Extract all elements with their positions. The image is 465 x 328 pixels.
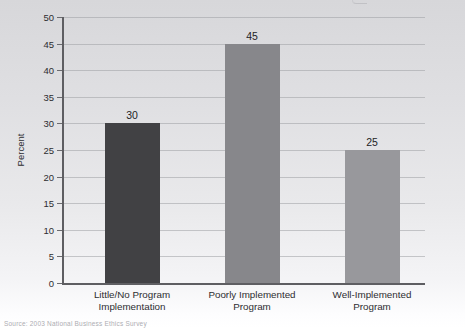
y-axis-tick [57,177,62,178]
y-axis-tick-label: 10 [22,224,54,235]
y-axis-tick [57,123,62,124]
y-axis-tick [57,283,62,284]
y-axis-tick [57,44,62,45]
y-axis-tick-label: 35 [22,91,54,102]
y-axis-tick [57,70,62,71]
y-axis-tick [57,256,62,257]
gridline [64,17,425,18]
y-axis-tick [57,17,62,18]
bar [345,150,400,283]
y-axis-tick-label: 25 [22,145,54,156]
y-axis-tick [57,203,62,204]
bar-value-label: 30 [102,109,162,123]
x-axis-category-label: Well-ImplementedProgram [297,289,447,313]
y-axis-tick-label: 30 [22,118,54,129]
cropped-text-artifact [352,0,367,4]
y-axis-tick-label: 20 [22,171,54,182]
source-note: Source: 2003 National Business Ethics Su… [4,320,147,327]
y-axis-tick-label: 50 [22,12,54,23]
y-axis-tick [57,97,62,98]
bar-value-label: 25 [342,136,402,150]
y-axis-tick-label: 15 [22,198,54,209]
bar [225,44,280,283]
y-axis-tick-label: 45 [22,38,54,49]
bar-value-label: 45 [222,30,282,44]
bar [105,123,160,283]
y-axis-tick-label: 5 [22,251,54,262]
y-axis-tick [57,230,62,231]
bar-chart-plot-area: Percent 0510152025303540455030Little/No … [62,17,425,285]
y-axis-tick-label: 0 [22,278,54,289]
y-axis-tick-label: 40 [22,65,54,76]
category-label-line: Program [297,301,447,313]
chart-panel: Percent 0510152025303540455030Little/No … [0,0,465,328]
category-label-line: Well-Implemented [297,289,447,301]
y-axis-tick [57,150,62,151]
